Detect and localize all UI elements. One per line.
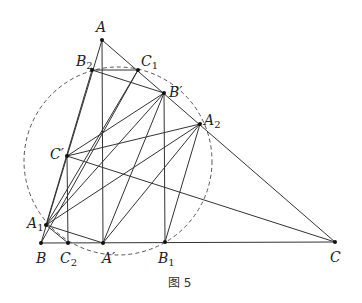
point-C2: [66, 241, 70, 245]
segment-Cp-C: [67, 156, 335, 242]
label-A: A: [94, 19, 106, 35]
segment-A1-Ap: [46, 225, 103, 243]
segment-A2-B1: [165, 124, 200, 242]
figure-caption: 图 5: [168, 276, 191, 290]
label-B: B: [35, 250, 46, 266]
label-B2: B2: [75, 53, 93, 71]
point-C1: [136, 68, 140, 72]
point-A: [100, 38, 104, 42]
label-C1: C1: [141, 53, 158, 71]
label-A1: A1: [25, 215, 44, 233]
label-C: C: [330, 249, 341, 265]
point-A1: [44, 223, 48, 227]
label-Bp: B′: [168, 84, 183, 100]
geometry-figure: AB2C1B′A2C′A1BC2A′B1C 图 5: [0, 0, 362, 303]
points: [39, 38, 337, 245]
point-A2: [198, 122, 202, 126]
point-B1: [163, 240, 167, 244]
label-B1: B1: [157, 250, 175, 268]
segment-Cp-C2: [67, 156, 68, 243]
label-A2: A2: [202, 112, 221, 130]
point-C: [333, 240, 337, 244]
segment-A2-Cp: [67, 124, 200, 156]
label-Ap: A′: [100, 250, 116, 266]
point-Bp: [162, 91, 166, 95]
line-segments: [41, 40, 335, 243]
label-C2: C2: [60, 250, 77, 268]
segment-A1-C2: [46, 225, 68, 243]
label-Cp: C′: [50, 146, 65, 162]
point-B: [39, 241, 43, 245]
point-Cp: [65, 154, 69, 158]
point-labels: AB2C1B′A2C′A1BC2A′B1C: [25, 19, 341, 268]
point-Ap: [101, 241, 105, 245]
segment-B-C: [41, 242, 335, 243]
